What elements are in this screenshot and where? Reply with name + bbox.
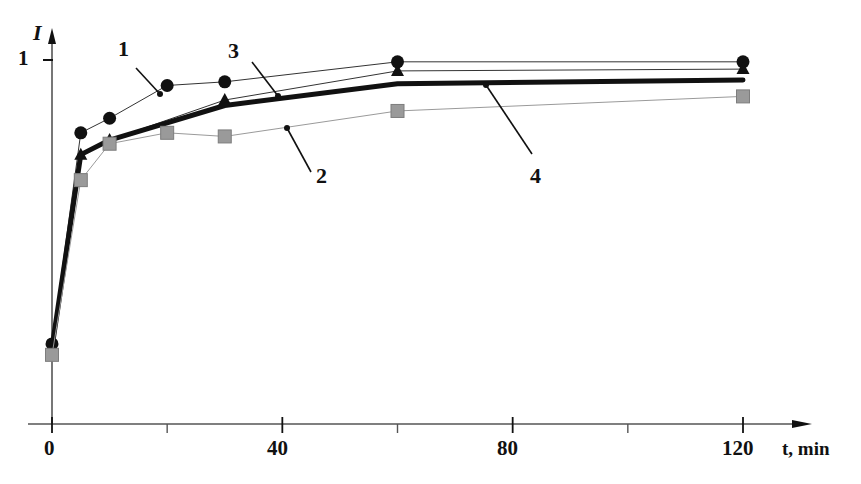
series-2 (46, 90, 750, 361)
leader-line-3-endpoint-dot (275, 93, 281, 99)
y-axis-title: I (33, 20, 42, 46)
leader-line-1-endpoint-dot (157, 91, 163, 97)
y-axis-tick-label-1: 1 (18, 46, 29, 71)
series-line-4 (52, 80, 743, 348)
page-bottom-artifact (40, 474, 740, 484)
x-axis-tick-label-0: 0 (44, 436, 55, 461)
x-axis-arrow-icon (792, 420, 812, 428)
marker-circle-1-5 (74, 126, 87, 139)
x-axis-title: t, min (782, 438, 830, 460)
series-1 (46, 55, 750, 350)
x-axis-tick-label-120: 120 (722, 436, 754, 461)
leader-line-2 (287, 128, 311, 172)
marker-square-2-120 (737, 90, 750, 103)
leader-line-4 (486, 85, 532, 154)
series-line-2 (52, 96, 743, 354)
marker-circle-1-30 (218, 75, 231, 88)
marker-square-2-0 (46, 348, 59, 361)
curve-label-4: 4 (530, 163, 541, 189)
leader-lines-layer (136, 62, 532, 172)
marker-square-2-30 (218, 130, 231, 143)
chart-canvas (0, 0, 861, 484)
marker-square-2-60 (391, 104, 404, 117)
x-axis-tick-label-40: 40 (267, 436, 288, 461)
leader-line-3 (252, 62, 278, 96)
marker-square-2-20 (161, 126, 174, 139)
curve-label-1: 1 (118, 36, 129, 62)
marker-square-2-10 (103, 137, 116, 150)
leader-line-2-endpoint-dot (284, 125, 290, 131)
marker-circle-1-20 (161, 79, 174, 92)
marker-circle-1-10 (103, 112, 116, 125)
series-4 (52, 80, 743, 348)
axes-layer (28, 28, 812, 433)
series-layer (46, 55, 750, 361)
curve-label-3: 3 (228, 38, 239, 64)
leader-line-4-endpoint-dot (483, 82, 489, 88)
marker-square-2-5 (74, 174, 87, 187)
figure-container: I 1 0 40 80 120 t, min 1 3 2 4 (0, 0, 861, 484)
curve-label-2: 2 (316, 163, 327, 189)
x-axis-tick-label-80: 80 (497, 436, 518, 461)
y-axis-arrow-icon (48, 28, 56, 44)
leader-line-1 (136, 68, 160, 94)
